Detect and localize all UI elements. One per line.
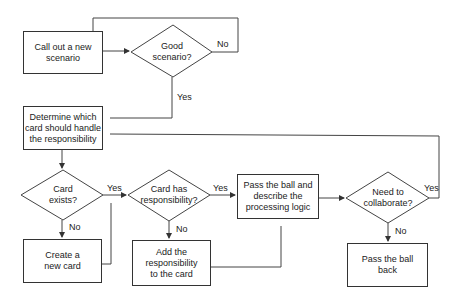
process-add-responsibility: Add the responsibility to the card	[132, 240, 211, 286]
edge-label-good-no: No	[217, 39, 229, 49]
decision-need-to-collaborate: Need to collaborate?	[354, 185, 422, 211]
edge-label-exists-no: No	[69, 222, 81, 232]
edge-label-has-no: No	[176, 224, 188, 234]
edge-label-exists-yes: Yes	[107, 183, 122, 193]
edge-label-has-yes: Yes	[213, 183, 228, 193]
process-pass-ball-back: Pass the ball back	[347, 243, 428, 287]
process-pass-ball-describe: Pass the ball and describe the processin…	[237, 174, 319, 219]
edge-label-collab-yes: Yes	[424, 183, 439, 193]
process-create-card: Create a new card	[23, 239, 102, 283]
decision-good-scenario: Good scenario?	[141, 38, 203, 66]
decision-card-exists: Card exists?	[42, 182, 84, 208]
decision-card-has-responsibility: Card has responsibility?	[136, 182, 202, 208]
process-call-out-scenario: Call out a new scenario	[23, 31, 103, 74]
edge-label-good-yes: Yes	[177, 92, 192, 102]
process-determine-card: Determine which card should handle the r…	[23, 106, 103, 150]
edge-label-collab-no: No	[395, 226, 407, 236]
